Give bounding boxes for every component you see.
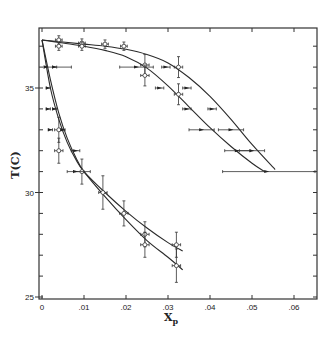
filled-point <box>223 170 315 173</box>
filled-point <box>155 87 163 90</box>
filled-point <box>239 149 264 152</box>
y-tick-label: 25 <box>25 293 34 302</box>
x-tick-label: .01 <box>78 303 90 312</box>
open-circle-point <box>174 57 182 78</box>
lower-upper-curve <box>42 40 183 251</box>
x-tick-label: .06 <box>288 303 300 312</box>
y-tick-label: 35 <box>25 84 34 93</box>
filled-point <box>120 66 154 69</box>
filled-point <box>46 107 51 110</box>
lower-lower-curve <box>42 40 183 270</box>
filled-point <box>48 128 53 131</box>
fitted-curves <box>42 40 275 270</box>
x-tick-label: 0 <box>40 303 45 312</box>
open-circle-point <box>55 138 63 163</box>
x-tick-label: .05 <box>246 303 258 312</box>
y-tick-label: 30 <box>25 189 34 198</box>
open-circle-point <box>120 201 128 226</box>
filled-point <box>208 107 216 110</box>
y-axis-title: T(C) <box>9 151 22 178</box>
x-axis-title: Xp <box>164 311 179 326</box>
axis-labels: T(C) Xp <box>9 151 178 326</box>
x-tick-label: .02 <box>120 303 132 312</box>
x-axis-title-subscript: p <box>172 316 178 326</box>
x-tick-label: .04 <box>204 303 216 312</box>
data-points <box>44 36 315 283</box>
filled-point <box>52 66 57 69</box>
filled-point <box>52 107 57 110</box>
axis-ticks: 0.01.02.03.04.05.06253035 <box>25 28 317 312</box>
upper-inner-curve <box>42 40 265 172</box>
filled-point <box>218 128 243 131</box>
open-circle-point <box>172 249 180 282</box>
upper-outer-curve <box>42 40 275 170</box>
filled-point <box>46 87 51 90</box>
filled-point <box>162 66 170 69</box>
open-circle-point <box>174 84 182 105</box>
open-circle-point <box>99 176 107 209</box>
phase-diagram-chart: 0.01.02.03.04.05.06253035 T(C) Xp <box>0 0 333 337</box>
filled-point <box>183 87 191 90</box>
